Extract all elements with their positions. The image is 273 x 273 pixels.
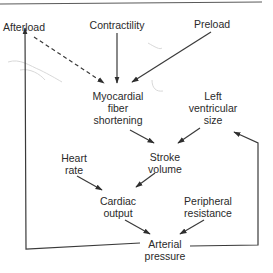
node-preload-label: Preload (194, 18, 230, 30)
node-cardiac-output-line2: output (100, 207, 136, 219)
pencil-marks (8, 43, 163, 91)
node-arterial-pressure-line1: Arterial (145, 238, 186, 250)
node-preload: Preload (194, 18, 230, 30)
node-contractility-label: Contractility (90, 19, 145, 31)
node-arterial-pressure-line2: pressure (145, 250, 186, 262)
edge-myocardial-to-stroke-volume (130, 130, 154, 143)
node-arterial-pressure: Arterial pressure (145, 238, 186, 262)
edge-preload-to-myocardial (132, 32, 211, 82)
edge-cardiac-output-to-arterial-pressure (125, 220, 150, 234)
node-peripheral-resistance-line1: Peripheral (184, 195, 232, 207)
node-afterload: Afterload (3, 21, 45, 33)
node-cardiac-output: Cardiac output (100, 195, 136, 219)
edge-arterial-pressure-to-lv-size (190, 132, 258, 246)
edge-peripheral-resistance-to-arterial-pressure (180, 220, 204, 234)
node-stroke-volume: Stroke volume (148, 151, 182, 175)
edge-stroke-volume-to-cardiac-output (136, 173, 155, 187)
node-contractility: Contractility (90, 19, 145, 31)
node-lv-size-line3: size (189, 114, 237, 126)
node-heart-rate: Heart rate (61, 152, 87, 176)
node-lv-size-line1: Left (189, 90, 237, 102)
node-myocardial-line3: shortening (93, 114, 144, 126)
edge-afterload-to-myocardial (34, 37, 104, 83)
node-myocardial-fiber-shortening: Myocardial fiber shortening (93, 90, 144, 126)
node-afterload-label: Afterload (3, 21, 45, 33)
node-lv-size-line2: ventricular (189, 102, 237, 114)
cardiac-output-diagram (0, 0, 273, 273)
node-heart-rate-line2: rate (61, 164, 87, 176)
node-left-ventricular-size: Left ventricular size (189, 90, 237, 126)
edge-heart-rate-to-cardiac-output (77, 176, 102, 190)
node-peripheral-resistance: Peripheral resistance (184, 195, 232, 219)
node-stroke-volume-line2: volume (148, 163, 182, 175)
node-cardiac-output-line1: Cardiac (100, 195, 136, 207)
node-heart-rate-line1: Heart (61, 152, 87, 164)
node-peripheral-resistance-line2: resistance (184, 207, 232, 219)
top-rule-divider (0, 2, 262, 4)
node-myocardial-line2: fiber (93, 102, 144, 114)
node-stroke-volume-line1: Stroke (148, 151, 182, 163)
edge-lv-size-to-stroke-volume (178, 128, 200, 143)
node-myocardial-line1: Myocardial (93, 90, 144, 102)
